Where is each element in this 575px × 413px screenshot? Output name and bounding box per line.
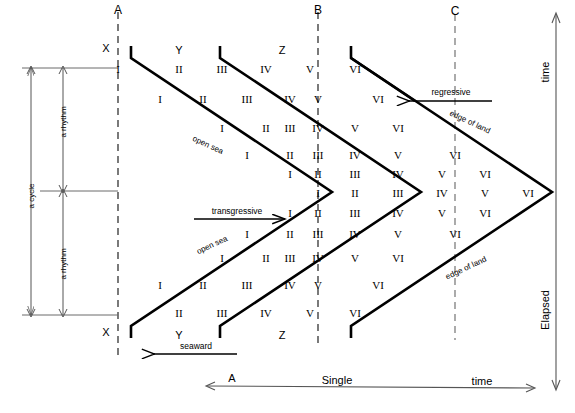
time-plane-numeral: VI — [372, 279, 384, 291]
time-plane-numeral: IV — [260, 307, 272, 319]
bracket-label-cycle: a cycle — [27, 184, 36, 209]
time-plane-numeral: II — [314, 207, 321, 219]
time-plane-numeral: III — [285, 252, 296, 264]
time-plane-numeral: VI — [392, 122, 404, 134]
time-plane-numeral: V — [351, 252, 359, 264]
time-plane-numeral: I — [288, 207, 292, 219]
time-plane-numeral: V — [351, 122, 359, 134]
section-label-b: B — [314, 3, 322, 17]
time-plane-numeral: IV — [260, 63, 272, 75]
time-plane-numeral: II — [175, 63, 182, 75]
time-plane-numeral: II — [351, 187, 358, 199]
time-plane-numeral: I — [316, 187, 320, 199]
time-plane-numeral: III — [350, 207, 361, 219]
time-plane-numeral: VI — [349, 63, 361, 75]
time-plane-numeral: I — [245, 149, 249, 161]
time-plane-numeral: I — [220, 122, 224, 134]
bracket-label-rhythm-lower: a rhythm — [59, 248, 68, 279]
time-plane-numeral: VI — [392, 252, 404, 264]
time-plane-numeral: II — [199, 93, 206, 105]
time-plane-numeral: IV — [284, 279, 296, 291]
time-plane-numeral: V — [438, 168, 446, 180]
bracket-label-rhythm-upper: a rhythm — [59, 106, 68, 137]
regressive-label: regressive — [431, 87, 470, 97]
time-plane-numeral: II — [175, 307, 182, 319]
seaward-label: seaward — [180, 341, 212, 351]
time-plane-numeral: IV — [392, 168, 404, 180]
time-plane-numeral: IV — [392, 207, 404, 219]
time-plane-numeral: V — [314, 93, 322, 105]
time-plane-numeral: III — [217, 63, 228, 75]
time-plane-numeral: II — [199, 279, 206, 291]
time-plane-numeral: II — [262, 122, 269, 134]
time-plane-numeral: V — [394, 228, 402, 240]
time-plane-numeral: I — [158, 93, 162, 105]
time-plane-numeral: II — [286, 228, 293, 240]
right-axis-label-time: time — [539, 62, 551, 83]
time-plane-numeral: III — [285, 122, 296, 134]
time-plane-numeral: I — [158, 279, 162, 291]
time-plane-numeral: VI — [479, 207, 491, 219]
time-plane-numeral: IV — [312, 122, 324, 134]
time-plane-numeral: II — [286, 149, 293, 161]
time-plane-numeral: II — [314, 168, 321, 180]
time-plane-numeral: V — [314, 279, 322, 291]
marker-x-bottom: X — [102, 326, 109, 338]
time-plane-numeral: I — [220, 252, 224, 264]
time-plane-numeral: VI — [479, 168, 491, 180]
time-plane-numeral: VI — [522, 187, 534, 199]
facies-boundary-1 — [131, 46, 332, 338]
time-plane-numeral: VI — [449, 228, 461, 240]
marker-z-top: Z — [279, 44, 286, 56]
time-plane-numeral: IV — [436, 187, 448, 199]
marker-z-bottom: Z — [279, 329, 286, 341]
time-plane-numeral: IV — [349, 228, 361, 240]
time-plane-numeral: VI — [372, 93, 384, 105]
marker-y-top: Y — [175, 44, 182, 56]
right-axis-label-elapsed: Elapsed — [539, 290, 551, 330]
time-plane-numeral: III — [350, 168, 361, 180]
time-plane-numeral: IV — [349, 149, 361, 161]
time-plane-numeral: III — [217, 307, 228, 319]
bracket-tick-lines — [22, 68, 118, 315]
bottom-axis-label-single: Single — [322, 374, 353, 386]
time-plane-numeral: IV — [312, 252, 324, 264]
marker-y-bottom: Y — [175, 329, 182, 341]
time-plane-numeral: IV — [284, 93, 296, 105]
time-plane-numeral: III — [393, 187, 404, 199]
time-plane-numeral: III — [242, 93, 253, 105]
transgressive-label: transgressive — [212, 206, 263, 216]
time-plane-numeral: V — [438, 207, 446, 219]
time-plane-numeral: VI — [449, 149, 461, 161]
marker-x-top: X — [102, 42, 109, 54]
time-plane-numeral: I — [288, 168, 292, 180]
bottom-axis-label-a: A — [228, 372, 235, 384]
section-label-c: C — [451, 4, 460, 18]
time-plane-numeral: V — [481, 187, 489, 199]
figure-canvas: A B C X Y Z X Y Z regressive transgressi… — [0, 0, 575, 413]
time-plane-numeral: III — [313, 228, 324, 240]
time-plane-numeral: VI — [349, 307, 361, 319]
facies-boundary-2b — [220, 46, 421, 338]
time-plane-numeral: II — [262, 252, 269, 264]
time-plane-numeral: I — [245, 228, 249, 240]
time-plane-numeral: V — [306, 63, 314, 75]
right-time-axis — [552, 13, 560, 390]
section-label-a: A — [114, 3, 122, 17]
time-plane-numeral: V — [306, 307, 314, 319]
bottom-axis-label-time: time — [472, 375, 493, 387]
time-plane-numeral: I — [116, 63, 120, 75]
time-plane-numeral: III — [313, 149, 324, 161]
time-plane-numeral: III — [242, 279, 253, 291]
time-plane-numeral: V — [394, 149, 402, 161]
